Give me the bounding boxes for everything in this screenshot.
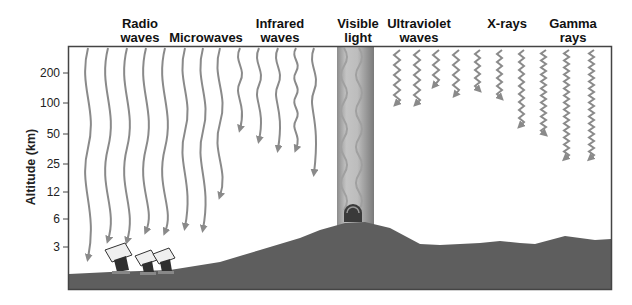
atmosphere-diagram — [0, 0, 632, 305]
ultraviolet-waves — [394, 50, 459, 104]
radio-waves — [85, 48, 168, 258]
radio-telescope-icon — [105, 243, 132, 274]
microwaves — [182, 48, 222, 229]
x-rays — [475, 50, 524, 126]
infrared-waves — [238, 48, 316, 173]
observatory-dome-icon — [344, 204, 362, 222]
y-axis-ticks — [63, 73, 68, 247]
radio-telescope-icon — [153, 248, 175, 274]
gamma-rays — [541, 50, 594, 159]
